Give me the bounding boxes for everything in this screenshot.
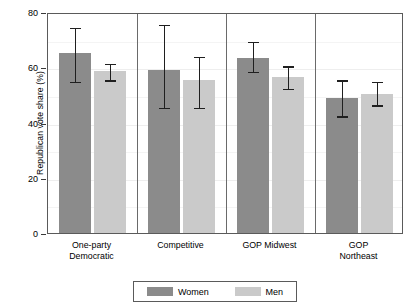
error-bar-men-4 [372,82,383,107]
y-tick-label-20: 20 [14,174,38,184]
error-bar-cap-lower [283,89,294,90]
legend-swatch-women [147,287,173,296]
panel-gop-midwest [226,14,315,233]
error-bar-women-2 [159,25,170,109]
legend-label-men: Men [266,287,284,297]
error-bar-stem [75,28,76,83]
error-bar-cap-upper [283,66,294,67]
legend-swatch-men [235,287,261,296]
y-tick-mark-60 [41,68,46,69]
panel-one-party-democratic [48,14,137,233]
error-bar-cap-lower [372,105,383,106]
error-bar-cap-upper [70,28,81,29]
x-tick-label-line: GOP Midwest [225,240,314,251]
error-bar-cap-lower [248,72,259,73]
error-bar-stem [199,57,200,109]
bar-women-3 [237,58,269,233]
y-tick-mark-20 [41,179,46,180]
x-tick-label-4: GOPNortheast [314,240,403,262]
error-bar-women-1 [70,28,81,83]
error-bar-women-3 [248,42,259,74]
error-bar-men-1 [105,64,116,82]
error-bar-cap-lower [337,116,348,117]
x-tick-label-line: One-party [47,240,136,251]
bar-men-4 [361,94,393,234]
x-tick-label-line: GOP [314,240,403,251]
plot-inner [48,14,402,233]
error-bar-cap-upper [337,80,348,81]
panel-competitive [137,14,226,233]
error-bar-stem [253,42,254,74]
chart-legend: WomenMen [133,281,297,302]
legend-item-women: Women [147,287,209,297]
legend-item-men: Men [235,287,284,297]
legend-label-women: Women [178,287,209,297]
x-tick-label-line: Democratic [47,251,136,262]
plot-area [47,13,403,234]
x-tick-label-2: Competitive [136,240,225,251]
error-bar-stem [377,82,378,107]
bar-men-3 [272,77,304,233]
x-tick-label-3: GOP Midwest [225,240,314,251]
x-tick-label-line: Northeast [314,251,403,262]
error-bar-cap-upper [159,25,170,26]
y-tick-label-40: 40 [14,119,38,129]
panel-separator-2 [226,14,227,233]
error-bar-cap-lower [159,108,170,109]
bar-women-4 [326,98,358,233]
error-bar-stem [164,25,165,109]
panel-gop-northeast [315,14,404,233]
error-bar-cap-upper [248,42,259,43]
error-bar-cap-upper [105,64,116,65]
y-tick-label-0: 0 [14,229,38,239]
y-tick-label-60: 60 [14,63,38,73]
x-tick-label-line: Competitive [136,240,225,251]
y-tick-mark-80 [41,13,46,14]
x-tick-label-1: One-partyDemocratic [47,240,136,262]
bar-men-1 [94,71,126,233]
error-bar-cap-lower [70,82,81,83]
y-axis-tick-labels: 020406080 [10,0,38,307]
error-bar-men-3 [283,66,294,89]
panel-separator-3 [315,14,316,233]
bar-chart-figure: Republican vote share (%) 020406080 One-… [0,0,410,307]
error-bar-stem [288,66,289,89]
error-bar-men-2 [194,57,205,109]
error-bar-stem [110,64,111,82]
error-bar-cap-lower [194,108,205,109]
error-bar-stem [342,80,343,117]
y-tick-mark-40 [41,124,46,125]
error-bar-women-4 [337,80,348,117]
panel-separator-1 [137,14,138,233]
error-bar-cap-upper [372,82,383,83]
error-bar-cap-lower [105,80,116,81]
y-tick-mark-0 [41,234,46,235]
error-bar-cap-upper [194,57,205,58]
y-tick-label-80: 80 [14,8,38,18]
